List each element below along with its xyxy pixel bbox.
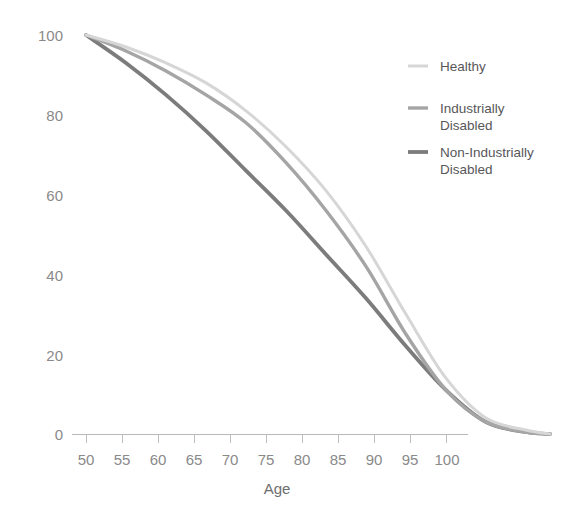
x-tick-label-70: 70 <box>222 451 239 468</box>
chart-svg: 100 80 60 40 20 0 50 55 60 <box>0 0 566 526</box>
chart-background <box>0 0 566 526</box>
y-tick-label-0: 0 <box>55 426 63 443</box>
survival-curve-chart: 100 80 60 40 20 0 50 55 60 <box>0 0 566 526</box>
y-tick-label-60: 60 <box>46 187 63 204</box>
x-tick-label-85: 85 <box>330 451 347 468</box>
x-tick-label-90: 90 <box>366 451 383 468</box>
legend-label-healthy: Healthy <box>440 59 486 74</box>
x-tick-label-95: 95 <box>402 451 419 468</box>
x-tick-label-65: 65 <box>186 451 203 468</box>
x-tick-label-60: 60 <box>150 451 167 468</box>
x-axis-title: Age <box>264 480 291 497</box>
x-tick-label-100: 100 <box>434 451 459 468</box>
x-tick-label-80: 80 <box>294 451 311 468</box>
legend-label-industrially-disabled-line1: Industrially <box>440 101 505 116</box>
y-tick-label-80: 80 <box>46 107 63 124</box>
legend-label-industrially-disabled-line2: Disabled <box>440 118 493 133</box>
x-tick-label-50: 50 <box>78 451 95 468</box>
y-tick-label-40: 40 <box>46 267 63 284</box>
y-tick-label-100: 100 <box>38 27 63 44</box>
y-tick-label-20: 20 <box>46 347 63 364</box>
legend-label-non-industrially-disabled-line2: Disabled <box>440 162 493 177</box>
x-tick-label-55: 55 <box>114 451 131 468</box>
legend-label-non-industrially-disabled-line1: Non-Industrially <box>440 145 534 160</box>
x-tick-label-75: 75 <box>258 451 275 468</box>
